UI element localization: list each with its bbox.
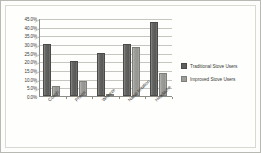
bar-traditional[interactable] — [70, 61, 78, 96]
legend-swatch-icon — [181, 76, 187, 82]
legend-item[interactable]: Improved Stove Users — [181, 76, 257, 82]
gridline — [39, 19, 172, 20]
legend-label: Traditional Stove Users — [190, 64, 237, 69]
y-axis-tick-label: 0.0% — [27, 95, 37, 100]
legend-label: Improved Stove Users — [190, 77, 235, 82]
y-axis-labels: 0.0%5.0%10.0%15.0%20.0%25.0%30.0%35.0%40… — [7, 19, 37, 97]
bar-traditional[interactable] — [43, 44, 51, 96]
bar-traditional[interactable] — [150, 22, 158, 96]
plot-area — [39, 19, 172, 97]
legend-item[interactable]: Traditional Stove Users — [181, 63, 257, 69]
bar-traditional[interactable] — [123, 44, 131, 96]
y-axis-line — [39, 19, 40, 97]
chart-legend: Traditional Stove UsersImproved Stove Us… — [181, 63, 257, 89]
chart-container: 0.0%5.0%10.0%15.0%20.0%25.0%30.0%35.0%40… — [0, 0, 261, 153]
x-axis-category-labels: CoughPhelmWheezeNasal IrritationHeadache — [39, 99, 189, 144]
legend-swatch-icon — [181, 63, 187, 69]
bar-traditional[interactable] — [97, 53, 105, 96]
